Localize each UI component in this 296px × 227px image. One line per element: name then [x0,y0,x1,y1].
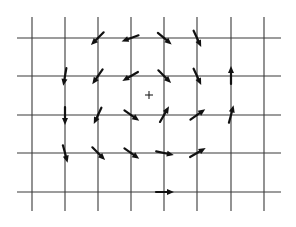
arrow-icon [156,68,173,85]
arrow-icon [123,146,141,161]
arrow-icon [228,66,234,84]
arrow-icon [156,31,174,47]
grid [17,17,281,211]
arrows [60,29,236,195]
arrow-icon [89,30,106,47]
arrow-icon [123,108,141,123]
arrow-icon [189,107,207,122]
arrow-icon [62,107,68,125]
arrow-icon [90,145,107,162]
arrow-icon [156,189,174,195]
vector-field-canvas [0,0,296,227]
arrow-icon [90,68,105,86]
vector-field-diagram [0,0,296,227]
center-marker [145,91,153,99]
